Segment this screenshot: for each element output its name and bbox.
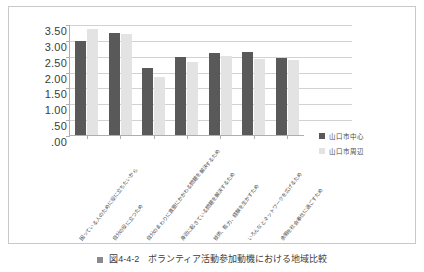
bar (288, 60, 299, 135)
plot-area (69, 25, 304, 136)
bar (209, 53, 220, 135)
bar (142, 68, 153, 135)
y-axis-tick-mark (66, 136, 70, 137)
bar-group (170, 25, 203, 135)
legend-item: 山口市周辺 (319, 144, 411, 157)
x-axis-category-label: いろんなとネットワークを広げるため (246, 171, 303, 242)
y-axis-tick-label: 1.50 (45, 88, 67, 100)
legend-label: 山口市中心 (329, 131, 364, 141)
y-axis-tick-label: .00 (51, 136, 67, 148)
legend-color-swatch (319, 148, 325, 154)
y-axis-tick-label: 2.00 (45, 73, 67, 85)
legend-label: 山口市周辺 (329, 146, 364, 156)
x-axis-category-labels: 困っている人のために役に立ちたいから自分の役に立つため自分のまわりに直面にかかわ… (69, 138, 304, 242)
bar (175, 57, 186, 135)
bar-group (237, 25, 270, 135)
square-bullet-icon (97, 257, 103, 263)
bar (154, 77, 165, 135)
chart-legend: 山口市中心山口市周辺 (319, 129, 411, 159)
legend-item: 山口市中心 (319, 129, 411, 142)
bar-group (204, 25, 237, 135)
bar-series-layer (70, 25, 304, 135)
y-axis-tick-label: 3.50 (45, 25, 67, 37)
y-axis-tick-label: 1.00 (45, 104, 67, 116)
y-axis-tick-label: 3.00 (45, 41, 67, 53)
y-axis-tick-labels: 3.503.002.502.001.501.00.50.00 (29, 19, 67, 136)
x-axis-category-label: 自分のまわりに直面にかかわる問題を解決するため (145, 148, 221, 242)
bar (276, 58, 287, 135)
bar (242, 52, 253, 135)
bar-group (271, 25, 304, 135)
x-axis-category-label: 困っている人のために役に立ちたいから (78, 167, 138, 242)
bar (109, 33, 120, 135)
figure-page: 3.503.002.502.001.501.00.50.00 困っている人のため… (0, 0, 424, 272)
bar (254, 59, 265, 135)
plot-wrapper: 3.503.002.502.001.501.00.50.00 困っている人のため… (9, 7, 415, 243)
bar-group (70, 25, 103, 135)
bar (75, 41, 86, 135)
legend-color-swatch (319, 133, 325, 139)
bar (187, 62, 198, 135)
bar (121, 34, 132, 135)
figure-caption-text: 図4-4-2 ボランティア活動参加動機における地域比較 (109, 254, 327, 264)
x-axis-category-label: 自分の役に立つため (112, 203, 144, 242)
bar (221, 56, 232, 135)
bar-group (103, 25, 136, 135)
bar (87, 29, 98, 135)
y-axis-tick-label: 2.50 (45, 57, 67, 69)
x-axis-category-label: 身近に起きている問題を解決するため (179, 171, 236, 242)
y-axis-tick-label: .50 (51, 120, 67, 132)
bar-group (137, 25, 170, 135)
chart-frame: 3.503.002.502.001.501.00.50.00 困っている人のため… (8, 6, 416, 244)
figure-caption: 図4-4-2 ボランティア活動参加動機における地域比較 (0, 252, 424, 265)
